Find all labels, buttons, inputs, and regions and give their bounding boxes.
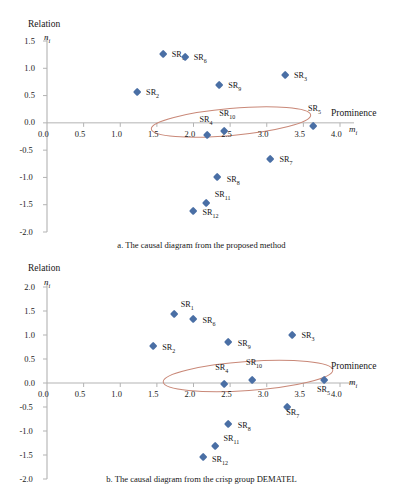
plot-area-a: Relation Prominence ni mi 0.00.51.01.52.…: [0, 0, 403, 252]
data-point-label-subscript: 10: [256, 362, 262, 368]
y-axis-tick-label: -1.0: [19, 173, 32, 182]
data-point-label-name: SR: [294, 71, 304, 80]
causal-diagram-a: Relation Prominence ni mi 0.00.51.01.52.…: [0, 0, 403, 252]
data-point-label-subscript: 11: [233, 439, 239, 445]
data-point-label-subscript: 12: [222, 460, 228, 466]
data-point-label-subscript: 5: [327, 389, 330, 395]
plot-area-b: Relation Prominence ni mi 0.00.51.01.52.…: [0, 252, 403, 494]
data-point-label-name: SR: [219, 109, 229, 118]
data-point-label-subscript: 8: [248, 426, 251, 432]
x-axis-tick-label: 1.5: [148, 130, 159, 139]
y-axis-tick-label: -1.5: [19, 200, 32, 209]
y-axis-tick-label: 0.5: [24, 91, 35, 100]
x-axis-tick-label: 1.0: [111, 130, 122, 139]
x-axis-tick-label: 2.0: [185, 390, 196, 399]
x-axis-tick-label: 2.5: [221, 390, 232, 399]
y-axis-tick-label: -1.0: [19, 427, 32, 436]
data-point-label-subscript: 12: [213, 213, 219, 219]
data-point-label-name: SR: [227, 175, 237, 184]
y-axis-variable-subscript: i: [49, 282, 51, 289]
y-axis-tick-label: -1.5: [19, 451, 32, 460]
data-point-label: SR10: [219, 110, 235, 120]
data-point-label-subscript: 2: [172, 348, 175, 354]
y-axis-tick-label: 1.0: [24, 64, 35, 73]
data-point-label-subscript: 2: [156, 93, 159, 99]
y-axis-tick-label: -2.0: [19, 228, 32, 237]
data-point-label-name: SR: [223, 434, 233, 443]
x-axis-tick-label: 4.0: [331, 130, 342, 139]
y-axis-variable: ni: [44, 33, 50, 44]
data-point-label-name: SR: [238, 421, 248, 430]
data-point-label-subscript: 4: [209, 120, 212, 126]
data-point-label: SR1: [181, 301, 194, 311]
y-axis-tick-label: 2.0: [24, 283, 35, 292]
y-axis-tick-label: 1.0: [24, 331, 35, 340]
figure-caption-a: a. The causal diagram from the proposed …: [0, 240, 403, 250]
data-point-label: SR12: [212, 456, 228, 466]
data-point-label: SR6: [194, 54, 207, 64]
x-axis-tick-label: 1.0: [111, 390, 122, 399]
data-point-label-subscript: 3: [311, 336, 314, 342]
y-axis-tick-label: 0.0: [24, 118, 35, 127]
data-point-label: SR3: [301, 332, 314, 342]
data-point-label-name: SR: [146, 88, 156, 97]
data-point-label-name: SR: [199, 115, 209, 124]
data-point-label: SR2: [162, 344, 175, 354]
plot-svg-a: [0, 0, 403, 252]
data-point-label-subscript: 8: [237, 180, 240, 186]
data-point-label: SR5: [317, 386, 330, 396]
x-axis-title: Prominence: [331, 362, 376, 372]
data-point-label-name: SR: [301, 331, 311, 340]
data-point-label: SR9: [238, 340, 251, 350]
data-point-label-subscript: 5: [318, 109, 321, 115]
data-point-label: SR12: [203, 209, 219, 219]
y-axis-variable: ni: [44, 278, 50, 289]
data-point-label: SR7: [286, 409, 299, 419]
data-point-label-subscript: 9: [238, 86, 241, 92]
data-point-label-subscript: 1: [191, 305, 194, 311]
data-point-label: SR6: [203, 317, 216, 327]
x-axis-variable-subscript: i: [356, 129, 358, 136]
y-axis-title: Relation: [28, 264, 60, 274]
data-point-label: SR11: [215, 191, 231, 201]
data-point-label-name: SR: [286, 408, 296, 417]
data-point-label-name: SR: [203, 208, 213, 217]
y-axis-tick-label: -0.5: [19, 146, 32, 155]
x-axis-tick-label: 0.0: [38, 390, 49, 399]
data-point-label-name: SR: [181, 300, 191, 309]
data-point-label-name: SR: [246, 358, 256, 367]
data-point-label: SR7: [279, 156, 292, 166]
data-point-label-name: SR: [238, 339, 248, 348]
data-point-label: SR9: [228, 82, 241, 92]
data-point-label-subscript: 7: [289, 160, 292, 166]
data-point-label: SR11: [223, 435, 239, 445]
data-point-label-name: SR: [194, 53, 204, 62]
y-axis-tick-label: 0.0: [24, 379, 35, 388]
data-point-label: SR4: [215, 364, 228, 374]
x-axis-tick-label: 0.5: [75, 130, 86, 139]
data-point-label-subscript: 9: [248, 343, 251, 349]
x-axis-tick-label: 3.0: [258, 390, 269, 399]
data-point-label-name: SR: [172, 50, 182, 59]
figure-caption-b: b. The causal diagram from the crisp gro…: [0, 474, 403, 484]
data-point-label: SR10: [246, 359, 262, 369]
y-axis-tick-label: 0.5: [24, 355, 35, 364]
data-point-label-name: SR: [215, 363, 225, 372]
causal-diagram-b: Relation Prominence ni mi 0.00.51.01.52.…: [0, 252, 403, 494]
data-point-label-subscript: 10: [229, 114, 235, 120]
y-axis-variable-subscript: i: [49, 37, 51, 44]
data-point-label-subscript: 11: [225, 195, 231, 201]
data-point-label-subscript: 3: [304, 75, 307, 81]
data-point-label: SR8: [238, 422, 251, 432]
x-axis-tick-label: 0.0: [38, 130, 49, 139]
data-point-label: SR3: [294, 72, 307, 82]
data-point-label: SR8: [227, 176, 240, 186]
x-axis-tick-label: 0.5: [75, 390, 86, 399]
y-axis-title: Relation: [28, 20, 60, 30]
data-point-label-name: SR: [317, 385, 327, 394]
x-axis-tick-label: 2.0: [185, 130, 196, 139]
data-point-label: SR4: [199, 116, 212, 126]
y-axis-tick-label: 1.5: [24, 307, 35, 316]
x-axis-tick-label: 1.5: [148, 390, 159, 399]
x-axis-variable: mi: [349, 125, 357, 136]
